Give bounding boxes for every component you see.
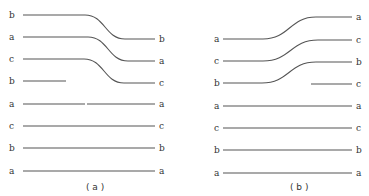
panel-caption: ( a ) [86,182,104,192]
right-label: a [159,166,165,176]
track-line [23,37,155,61]
track-line [223,17,352,39]
left-label: a [214,101,220,111]
right-label: b [356,145,362,155]
right-label: b [356,57,362,67]
left-label: c [9,54,14,64]
left-label: a [214,34,220,44]
panel-b: aaccbbcaaccbbaa( b ) [214,12,362,192]
right-label: c [356,35,361,45]
left-label: a [214,168,220,178]
right-label: b [159,34,165,44]
panel-caption: ( b ) [290,182,308,192]
panel-a: bbaaccbaaccbbaa( a ) [9,10,165,192]
right-label: c [159,78,164,88]
track-line [23,59,155,83]
left-label: a [9,32,15,42]
left-label: c [214,56,219,66]
left-label: c [214,123,219,133]
right-label: a [356,101,362,111]
left-label: b [9,143,15,153]
left-label: c [9,121,14,131]
left-label: b [9,10,15,20]
right-label: c [356,79,361,89]
left-label: b [9,76,15,86]
track-line [223,62,352,83]
left-label: a [9,99,15,109]
right-label: a [356,168,362,178]
track-line [23,15,155,39]
track-line [223,40,352,61]
right-label: a [356,12,362,22]
left-label: b [214,78,220,88]
right-label: b [159,143,165,153]
right-label: c [159,121,164,131]
right-label: c [356,123,361,133]
right-label: a [159,99,165,109]
left-label: b [214,145,220,155]
left-label: a [9,166,15,176]
sequence-alignment-diagram: bbaaccbaaccbbaa( a ) aaccbbcaaccbbaa( b … [0,0,369,196]
right-label: a [159,56,165,66]
